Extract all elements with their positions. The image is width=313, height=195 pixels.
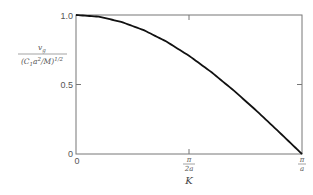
svg-text:(C1a2/M)1/2: (C1a2/M)1/2 (21, 56, 64, 67)
svg-text:π: π (299, 156, 305, 164)
x-tick-label-pi-over-a: π a (298, 156, 306, 173)
group-velocity-curve (76, 15, 302, 154)
x-tick-label-0: 0 (74, 156, 79, 166)
svg-text:π: π (186, 156, 192, 164)
y-tick-label-0: 0 (68, 149, 73, 159)
svg-text:vg: vg (38, 43, 46, 54)
x-tick-label-pi-over-2a: π 2a (183, 156, 195, 173)
plot-frame (76, 15, 302, 154)
y-axis-label: vg (C1a2/M)1/2 (18, 43, 67, 67)
chart-canvas: 1.0 0.5 0 0 π 2a π a K vg (C1a2/M)1/2 (0, 0, 313, 195)
svg-text:a: a (300, 165, 304, 173)
svg-text:2a: 2a (184, 165, 194, 173)
y-tick-label-1.0: 1.0 (60, 11, 73, 21)
x-axis-label: K (184, 175, 193, 186)
y-tick-label-0.5: 0.5 (60, 80, 73, 90)
